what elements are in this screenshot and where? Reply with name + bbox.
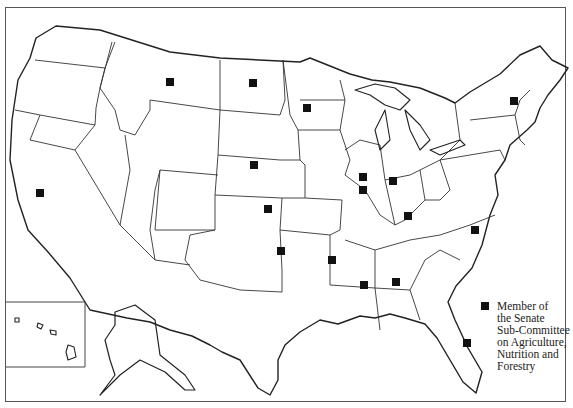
marker-vermont	[510, 97, 518, 105]
legend-text: Member of the Senate Sub-Committee on Ag…	[497, 300, 573, 372]
marker-minnesota	[303, 104, 311, 112]
marker-california	[36, 189, 44, 197]
marker-north-dakota	[249, 79, 257, 87]
marker-indiana	[389, 177, 397, 185]
great-lakes	[355, 84, 465, 155]
marker-mississippi	[360, 281, 368, 289]
hawaii-islands	[15, 318, 76, 360]
marker-north-carolina	[471, 226, 479, 234]
state-borders	[15, 42, 530, 330]
marker-nebraska	[250, 161, 258, 169]
marker-arkansas	[328, 256, 336, 264]
us-map	[0, 0, 573, 408]
marker-illinois-1	[359, 173, 367, 181]
marker-illinois-2	[359, 186, 367, 194]
inset-frame	[6, 302, 85, 367]
marker-kansas	[264, 205, 272, 213]
legend-marker-square-icon	[481, 302, 489, 310]
marker-oklahoma	[277, 247, 285, 255]
marker-kentucky	[404, 212, 412, 220]
member-markers	[36, 78, 518, 347]
marker-florida	[463, 339, 471, 347]
marker-alabama	[392, 278, 400, 286]
alaska-outline	[100, 305, 195, 395]
us-outline	[10, 26, 568, 395]
marker-montana	[166, 78, 174, 86]
